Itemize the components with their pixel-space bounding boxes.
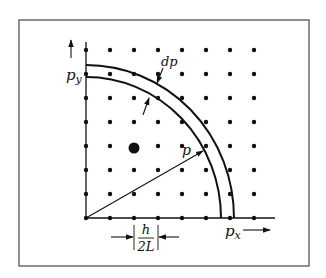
lattice-point <box>132 48 136 52</box>
lattice-point <box>228 72 232 76</box>
lattice-point <box>228 168 232 172</box>
lattice-point <box>132 168 136 172</box>
spacing-numerator: h <box>142 222 150 237</box>
lattice-point <box>204 48 208 52</box>
lattice-point <box>108 120 112 124</box>
lattice-point <box>252 168 256 172</box>
lattice-point <box>132 96 136 100</box>
lattice-point <box>156 120 160 124</box>
dp-arrow-inner <box>143 98 149 115</box>
lattice-point <box>252 192 256 196</box>
lattice-point <box>228 48 232 52</box>
lattice-point <box>252 120 256 124</box>
lattice-point <box>108 168 112 172</box>
lattice-point <box>252 72 256 76</box>
lattice-point <box>108 72 112 76</box>
lattice-point <box>108 48 112 52</box>
inner-shell-arc <box>86 77 221 218</box>
lattice-point <box>252 96 256 100</box>
momentum-space-diagram: py px dp p h 2L <box>0 0 326 278</box>
lattice-points <box>84 48 256 220</box>
lattice-point <box>252 48 256 52</box>
lattice-point <box>156 48 160 52</box>
lattice-point <box>204 144 208 148</box>
py-label: py <box>66 66 83 86</box>
lattice-point <box>204 168 208 172</box>
lattice-point <box>252 144 256 148</box>
lattice-point <box>132 192 136 196</box>
lattice-point <box>180 48 184 52</box>
lattice-point <box>204 96 208 100</box>
lattice-point <box>228 120 232 124</box>
lattice-point <box>228 96 232 100</box>
lattice-point <box>228 144 232 148</box>
lattice-point <box>156 168 160 172</box>
px-label: px <box>225 222 242 242</box>
dp-label: dp <box>161 54 178 69</box>
spacing-denominator: 2L <box>137 239 155 254</box>
lattice-point <box>204 120 208 124</box>
highlight-point <box>129 143 140 154</box>
lattice-point <box>156 192 160 196</box>
lattice-point <box>180 168 184 172</box>
p-vector-arrow <box>86 151 203 218</box>
p-label: p <box>182 142 191 158</box>
lattice-point <box>204 72 208 76</box>
lattice-point <box>108 96 112 100</box>
lattice-point <box>180 72 184 76</box>
lattice-point <box>108 192 112 196</box>
lattice-point <box>156 144 160 148</box>
lattice-point <box>204 192 208 196</box>
lattice-point <box>132 120 136 124</box>
lattice-point <box>108 144 112 148</box>
lattice-point <box>180 192 184 196</box>
